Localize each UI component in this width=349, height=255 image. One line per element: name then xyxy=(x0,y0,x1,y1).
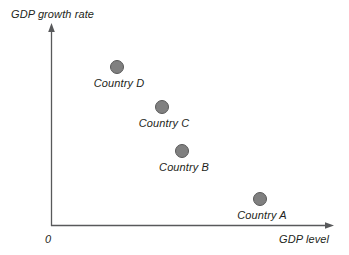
data-point-label-country-d: Country D xyxy=(94,77,144,89)
y-axis-arrowhead xyxy=(48,23,55,32)
data-point-marker xyxy=(111,61,124,74)
data-point-marker xyxy=(254,193,267,206)
data-point-label-country-a: Country A xyxy=(237,209,286,221)
x-axis-label: GDP level xyxy=(279,233,329,245)
data-point-label-country-c: Country C xyxy=(139,117,189,129)
axes-group xyxy=(48,23,334,229)
data-point-marker xyxy=(176,145,189,158)
data-point-label-country-b: Country B xyxy=(159,161,209,173)
scatter-chart-figure: GDP growth rate GDP level 0 Country D Co… xyxy=(0,0,349,255)
x-axis-arrowhead xyxy=(325,222,334,229)
origin-tick-label: 0 xyxy=(45,233,51,245)
y-axis-label: GDP growth rate xyxy=(11,8,94,20)
data-point-marker xyxy=(156,101,169,114)
